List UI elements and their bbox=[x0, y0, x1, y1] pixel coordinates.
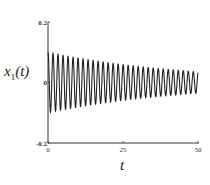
x-tick-label: 25 bbox=[120, 146, 128, 154]
chart-canvas: 02550-0.200.2 x1(t) t bbox=[0, 0, 210, 185]
axes bbox=[48, 22, 199, 143]
y-tick-label: 0.2 bbox=[38, 19, 47, 27]
y-tick-label: -0.2 bbox=[36, 140, 48, 148]
x-axis-title: t bbox=[120, 157, 125, 173]
x-tick-label: 50 bbox=[195, 146, 203, 154]
svg-text:x1(t): x1(t) bbox=[3, 63, 29, 82]
ylabel-rest: (t) bbox=[15, 63, 29, 80]
series-line bbox=[48, 52, 198, 112]
y-tick-label: 0 bbox=[44, 79, 48, 87]
y-axis-title: x1(t) bbox=[3, 63, 29, 82]
